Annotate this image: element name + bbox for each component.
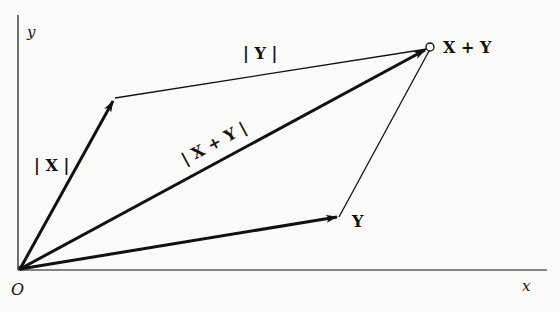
norm-x-label: | X | [34,156,69,175]
y-axis-label: y [26,23,36,41]
point-y-label: Y [351,212,364,231]
x-axis-label: x [522,277,531,295]
vector-parallelogram-diagram: y x O | Y | | X | | X + Y | Y X + Y [0,0,560,312]
norm-sum-label: | X + Y | [178,118,250,168]
origin-label: O [11,280,24,299]
norm-y-label: | Y | [243,44,277,63]
point-sum-label: X + Y [443,38,492,57]
origin-point [19,266,24,271]
sum-endpoint-circle-icon [426,43,434,51]
side-x-translated [339,51,429,217]
